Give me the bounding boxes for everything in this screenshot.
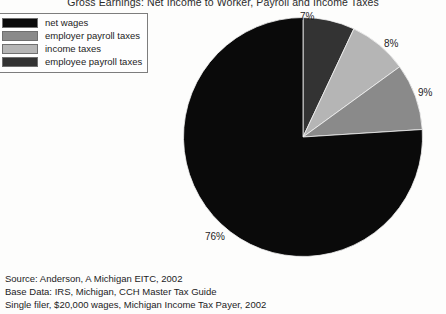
- legend-item-net-wages: net wages: [2, 16, 88, 29]
- slice-value-label: 8%: [384, 38, 398, 49]
- pie-slice-group: [183, 18, 422, 257]
- legend-swatch-icon: [2, 57, 38, 67]
- source-note: Source: Anderson, A Michigan EITC, 2002 …: [5, 272, 425, 311]
- legend-label: employee payroll taxes: [45, 56, 142, 67]
- legend-swatch-icon: [2, 18, 38, 28]
- source-line-1: Source: Anderson, A Michigan EITC, 2002: [5, 272, 425, 285]
- legend-swatch-icon: [2, 31, 38, 41]
- legend-swatch-icon: [2, 44, 38, 54]
- pie-chart: [183, 17, 423, 257]
- chart-legend: net wages employer payroll taxes income …: [0, 13, 148, 73]
- source-line-2: Base Data: IRS, Michigan, CCH Master Tax…: [5, 285, 425, 298]
- legend-label: net wages: [45, 17, 88, 28]
- slice-value-label: 9%: [418, 87, 432, 98]
- pie-chart-svg: [183, 17, 423, 257]
- legend-item-employee-payroll-taxes: employee payroll taxes: [2, 55, 142, 68]
- legend-item-employer-payroll-taxes: employer payroll taxes: [2, 29, 140, 42]
- slice-value-label: 7%: [300, 11, 314, 22]
- source-line-3: Single filer, $20,000 wages, Michigan In…: [5, 298, 425, 311]
- legend-label: income taxes: [45, 43, 101, 54]
- legend-item-income-taxes: income taxes: [2, 42, 101, 55]
- legend-label: employer payroll taxes: [45, 30, 140, 41]
- page-title: Gross Earnings: Net Income to Worker, Pa…: [0, 0, 446, 8]
- slice-value-label: 76%: [205, 231, 225, 242]
- chart-page: Gross Earnings: Net Income to Worker, Pa…: [0, 0, 446, 314]
